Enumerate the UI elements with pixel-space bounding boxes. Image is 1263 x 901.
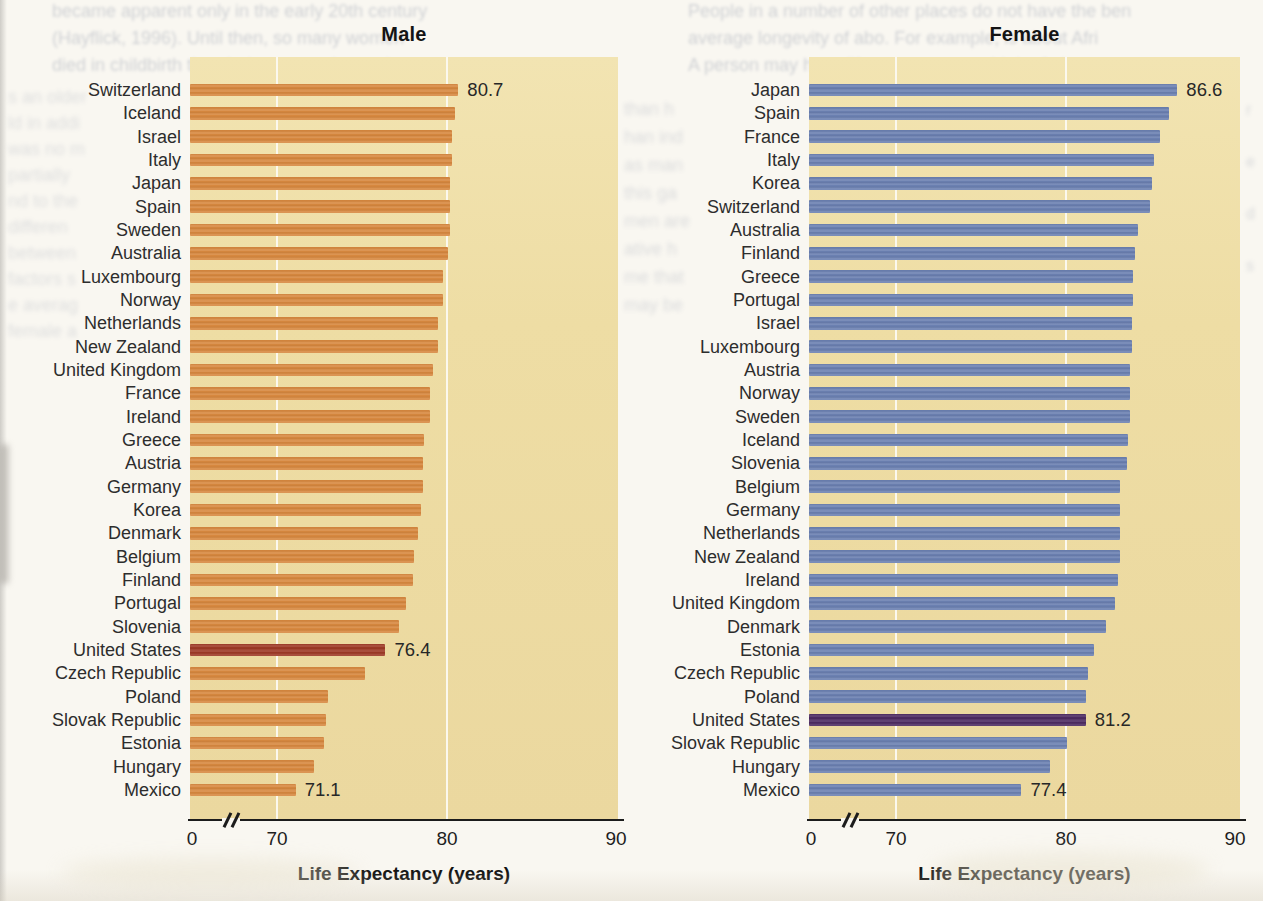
bar (190, 177, 450, 190)
plot-area: 86.681.277.4 (809, 57, 1240, 819)
bar-highlighted (190, 644, 385, 657)
country-label: Luxembourg (700, 336, 800, 357)
country-label: Poland (744, 686, 800, 707)
bar (190, 387, 430, 400)
bar (190, 737, 324, 750)
country-label: Slovak Republic (52, 709, 181, 730)
country-label: New Zealand (75, 336, 181, 357)
axis-tick-label: 90 (1212, 828, 1258, 850)
value-label: 76.4 (394, 639, 430, 661)
country-label: Austria (744, 359, 800, 380)
bar (190, 340, 438, 353)
country-label: New Zealand (694, 546, 800, 567)
country-label: United Kingdom (672, 593, 800, 614)
bar (190, 410, 430, 423)
bar (809, 364, 1130, 377)
scan-noise (930, 852, 1210, 888)
bar (809, 737, 1067, 750)
bar (190, 364, 433, 377)
country-label: Austria (125, 453, 181, 474)
bar (190, 154, 452, 167)
bar (809, 574, 1118, 587)
bar (809, 130, 1160, 143)
axis-tick-label: 0 (169, 828, 215, 850)
country-label: France (744, 126, 800, 147)
bar (809, 434, 1128, 447)
country-label: Korea (133, 499, 181, 520)
country-label: Germany (726, 499, 800, 520)
bar (809, 784, 1021, 797)
country-label: Switzerland (88, 80, 181, 101)
bar (190, 270, 443, 283)
bar (190, 130, 452, 143)
bar (809, 154, 1154, 167)
scan-noise (60, 858, 360, 886)
country-label: Estonia (740, 639, 800, 660)
bar (190, 434, 424, 447)
country-label: Ireland (745, 569, 800, 590)
bar (809, 667, 1088, 680)
bar (809, 457, 1127, 470)
bar (190, 714, 326, 727)
value-label: 71.1 (305, 779, 341, 801)
country-label: United Kingdom (53, 359, 181, 380)
country-label: Slovenia (112, 616, 181, 637)
x-axis-line (188, 819, 624, 821)
country-label: Finland (122, 569, 181, 590)
country-label: Portugal (733, 289, 800, 310)
bar (190, 457, 423, 470)
bar (190, 200, 450, 213)
bar (190, 550, 414, 563)
bar (809, 550, 1120, 563)
country-label: Korea (752, 173, 800, 194)
country-label: Ireland (126, 406, 181, 427)
country-label: Denmark (727, 616, 800, 637)
country-label: Iceland (742, 429, 800, 450)
country-label: Sweden (735, 406, 800, 427)
bar (190, 317, 438, 330)
category-labels: JapanSpainFranceItalyKoreaSwitzerlandAus… (632, 57, 800, 819)
bar (809, 200, 1150, 213)
country-label: Mexico (124, 779, 181, 800)
bar (809, 527, 1120, 540)
bar (809, 644, 1094, 657)
bar (809, 84, 1177, 97)
bar (809, 294, 1133, 307)
country-label: United States (73, 639, 181, 660)
bar (190, 620, 399, 633)
plot-area: 80.776.471.1 (190, 57, 618, 819)
country-label: Hungary (732, 756, 800, 777)
bar (190, 107, 455, 120)
bar (190, 760, 314, 773)
country-label: Mexico (743, 779, 800, 800)
country-label: Iceland (123, 103, 181, 124)
chart-title: Female (809, 23, 1240, 46)
country-label: Norway (739, 383, 800, 404)
country-label: Netherlands (84, 313, 181, 334)
bar (190, 574, 413, 587)
bar (190, 690, 328, 703)
country-label: Poland (125, 686, 181, 707)
bar (190, 480, 423, 493)
gridline (446, 57, 448, 819)
country-label: Portugal (114, 593, 181, 614)
country-label: Belgium (735, 476, 800, 497)
country-label: Italy (767, 149, 800, 170)
country-label: Germany (107, 476, 181, 497)
country-label: Luxembourg (81, 266, 181, 287)
country-label: Hungary (113, 756, 181, 777)
country-label: Israel (137, 126, 181, 147)
country-label: Japan (132, 173, 181, 194)
bar (190, 784, 296, 797)
country-label: Slovak Republic (671, 733, 800, 754)
bar (809, 690, 1086, 703)
bar (190, 224, 450, 237)
country-label: Netherlands (703, 523, 800, 544)
bar (809, 177, 1152, 190)
axis-break-mark (839, 811, 863, 829)
x-axis-line (807, 819, 1246, 821)
country-label: Italy (148, 149, 181, 170)
country-label: Sweden (116, 219, 181, 240)
value-label: 77.4 (1030, 779, 1066, 801)
value-label: 80.7 (467, 79, 503, 101)
